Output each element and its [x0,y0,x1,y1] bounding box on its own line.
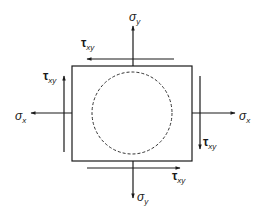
tau-xy-right-label: τxy [203,135,217,151]
sigma-y-bottom-label: σy [137,190,149,206]
inscribed-dashed-circle [92,72,172,154]
tau-xy-bottom-label: τxy [172,169,186,185]
stress-element-diagram: σy τxy τxy σx σx τxy τxy σy [0,0,264,221]
sigma-y-top-label: σy [129,10,141,26]
stress-element-square [72,66,192,161]
tau-xy-left-label: τxy [43,69,57,85]
sigma-x-left-label: σx [15,109,27,125]
tau-xy-top-label: τxy [81,36,95,52]
sigma-x-right-label: σx [239,109,251,125]
